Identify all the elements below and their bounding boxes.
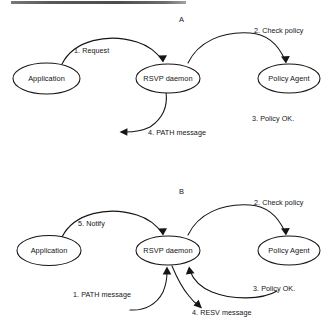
edge-b-path-message-label: 1. PATH message [73, 290, 131, 299]
edge-a-check-policy-label: 2. Check policy [254, 26, 304, 35]
node-b-rsvp-daemon: RSVP daemon [136, 236, 200, 265]
node-a-rsvp-daemon-label: RSVP daemon [143, 74, 192, 83]
edge-a-check-policy-path [188, 33, 285, 63]
node-a-application: Application [13, 63, 80, 94]
edge-a-request-label: 1. Request [74, 46, 109, 55]
edge-b-resv-message-label: 4. RESV message [192, 308, 251, 317]
edge-b-path-message: 1. PATH message [73, 267, 171, 311]
edge-b-path-message-arrowhead [163, 267, 172, 275]
node-b-policy-agent: Policy Agent [258, 236, 320, 265]
node-a-rsvp-daemon: RSVP daemon [136, 64, 200, 93]
node-a-policy-agent-label: Policy Agent [268, 74, 309, 83]
edge-a-policy-ok-label: 3. Policy OK. [252, 114, 294, 123]
edge-a-check-policy-arrowhead [281, 56, 290, 64]
edge-a-request-arrowhead [158, 55, 167, 62]
edge-b-check-policy-arrowhead [281, 228, 290, 236]
edge-a-check-policy: 2. Check policy [188, 26, 304, 64]
edge-b-notify-label: 5. Notify [78, 219, 105, 228]
edge-b-policy-ok-arrowhead [186, 267, 195, 275]
edge-a-request: 1. Request [62, 38, 167, 64]
edge-b-check-policy: 2. Check policy [188, 198, 304, 236]
edge-b-path-message-path [130, 272, 167, 310]
node-b-application-label: Application [31, 246, 68, 255]
panel-a: A 1. Request 2. Check policy 3. Policy O… [13, 15, 320, 137]
edge-b-check-policy-path [188, 205, 285, 235]
edge-b-resv-message-path [172, 266, 198, 305]
edge-b-policy-ok: 3. Policy OK. [186, 267, 295, 298]
edge-a-path-message: 4. PATH message [120, 92, 207, 137]
node-b-rsvp-daemon-label: RSVP daemon [143, 246, 192, 255]
panel-a-label: A [179, 15, 184, 24]
diagram-svg: A 1. Request 2. Check policy 3. Policy O… [0, 0, 334, 322]
node-a-policy-agent: Policy Agent [258, 64, 320, 93]
edge-a-path-message-path [125, 92, 166, 132]
edge-a-path-message-arrowhead [120, 128, 128, 136]
edge-b-notify-arrowhead [158, 228, 167, 235]
panel-b: B 5. Notify 2. Check policy 3. Policy OK… [17, 187, 320, 317]
panel-b-label: B [179, 187, 184, 196]
edge-a-path-message-label: 4. PATH message [148, 128, 206, 137]
edge-b-policy-ok-label: 3. Policy OK. [253, 284, 295, 293]
diagram-canvas: A 1. Request 2. Check policy 3. Policy O… [0, 0, 334, 322]
edge-a-policy-ok: 3. Policy OK. [252, 114, 294, 123]
edge-b-notify: 5. Notify [62, 211, 167, 237]
edge-b-check-policy-label: 2. Check policy [254, 198, 304, 207]
node-a-application-label: Application [28, 74, 65, 83]
node-b-application: Application [17, 236, 81, 266]
node-b-policy-agent-label: Policy Agent [268, 246, 309, 255]
